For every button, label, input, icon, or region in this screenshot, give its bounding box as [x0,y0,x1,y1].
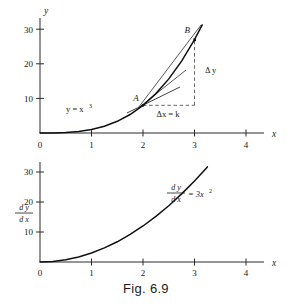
x-axis-ticks: 0 1 2 3 4 [38,259,249,279]
figure-6-9: y x 10 20 30 0 1 2 3 4 [0,0,292,307]
chart-dydx-vs-x-svg: x d y d x 10 20 30 0 [0,152,292,280]
secant-chord-ab [139,25,201,107]
curve-equation-numerator: d y [171,183,181,192]
delta-y-label: Δ y [205,65,217,75]
x-tick-label-1: 1 [89,140,94,150]
y-tick-label-30: 30 [24,167,34,177]
curve-equation-exponent: 2 [209,188,212,194]
y-axis-title-denominator: d x [19,215,29,224]
chart-y-vs-x-svg: y x 10 20 30 0 1 2 3 4 [0,0,292,152]
curve-equation-text: y = x [66,104,84,114]
y-axis-ticks: 10 20 30 [24,167,44,237]
x-tick-label-3: 3 [192,268,197,278]
point-b-marker [193,38,196,41]
x-tick-label-4: 4 [244,140,249,150]
x-axis-title: x [271,129,277,139]
point-a-marker [142,104,145,107]
y-tick-label-10: 10 [24,227,34,237]
y-tick-label-20: 20 [24,59,34,69]
y-tick-label-20: 20 [24,197,34,207]
x-tick-label-3: 3 [192,140,197,150]
x-tick-label-4: 4 [244,268,249,278]
x-tick-label-2: 2 [141,140,146,150]
x-tick-label-1: 1 [89,268,94,278]
chart-dydx-vs-x: x d y d x 10 20 30 0 [0,152,292,280]
y-axis-title: y [43,6,49,16]
chart-y-vs-x: y x 10 20 30 0 1 2 3 4 [0,0,292,152]
figure-caption: Fig. 6.9 [0,281,292,296]
x-tick-label-2: 2 [141,268,146,278]
curve-equation-rhs: = 3x [188,189,204,199]
x-axis-title: x [271,258,277,268]
y-axis-ticks: 10 20 30 [24,25,44,104]
y-tick-label-10: 10 [24,94,34,104]
curve-equation-exponent: 3 [89,103,92,109]
curve-equation-label: y = x 3 [66,103,92,114]
x-tick-label-0: 0 [38,140,43,150]
curve-equation-denominator: d x [171,195,181,204]
point-b-label: B [185,25,191,35]
curve-dydx-equals-3x-squared [40,167,207,262]
point-a-label: A [132,93,139,103]
y-tick-label-30: 30 [24,25,34,35]
x-tick-label-0: 0 [38,268,43,278]
delta-x-label: Δx = k [156,109,180,119]
